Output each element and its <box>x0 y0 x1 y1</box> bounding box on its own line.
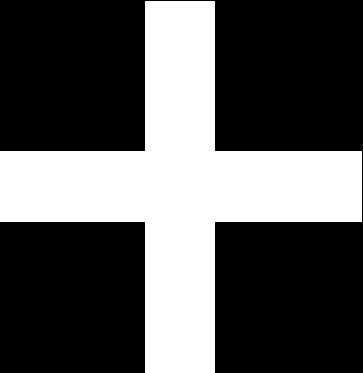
cross-horizontal-bar <box>0 151 362 222</box>
cross-image <box>0 0 363 373</box>
